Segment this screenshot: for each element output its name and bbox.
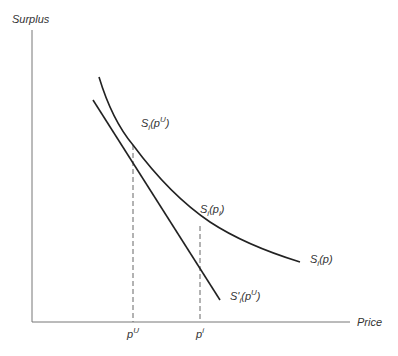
tick-label-pU: pU <box>127 326 139 340</box>
diagram-canvas <box>0 0 398 356</box>
curve-label: Si(p) <box>310 253 333 268</box>
x-axis-label: Price <box>357 316 382 328</box>
curve-point-label: Si(pi) <box>200 203 224 218</box>
tangent-point-label: Si(pU) <box>141 115 169 132</box>
tangent-line-label: S'i(pU) <box>230 288 260 305</box>
tick-label-pi: pi <box>196 326 204 340</box>
y-axis-label: Surplus <box>12 13 49 25</box>
